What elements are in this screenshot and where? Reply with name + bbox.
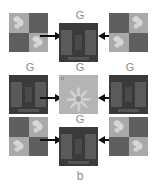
micrograph-cell-middle-left[interactable]: G bbox=[4, 62, 56, 114]
beam-bar-left bbox=[11, 82, 22, 107]
flower-pattern bbox=[59, 75, 98, 114]
micrograph-tile-beam bbox=[109, 75, 148, 114]
figure-row-bottom: G bbox=[0, 114, 160, 166]
micrograph-cell-middle-right[interactable]: G bbox=[104, 62, 156, 114]
beam-pattern bbox=[59, 23, 98, 62]
quadrant-top-left bbox=[9, 13, 29, 33]
beam-waist bbox=[25, 87, 33, 103]
beam-waist bbox=[75, 139, 83, 155]
micrograph-cell-bottom-right[interactable] bbox=[104, 114, 156, 166]
quadrant-bottom-left bbox=[9, 33, 29, 53]
quadrant-bottom-right bbox=[129, 137, 149, 157]
flower-core bbox=[76, 96, 82, 101]
figure-row-middle: G G bbox=[0, 62, 160, 114]
state-label-middle-left: G bbox=[4, 62, 56, 73]
quadrant-top-right bbox=[29, 117, 49, 137]
quadrant-top-left bbox=[109, 13, 129, 33]
beam-foot bbox=[68, 161, 90, 165]
micrograph-cell-middle-center[interactable]: G bbox=[54, 62, 106, 114]
panel-letter-label: b bbox=[54, 170, 106, 182]
corner-marker bbox=[61, 77, 65, 80]
beam-bar-right bbox=[135, 82, 146, 107]
beam-bar-left bbox=[61, 134, 72, 159]
quadrant-bottom-right bbox=[129, 33, 149, 53]
quadrant-top-left bbox=[9, 117, 29, 137]
state-label-middle-right: G bbox=[104, 62, 156, 73]
beam-foot bbox=[18, 109, 40, 113]
micrograph-tile-beam bbox=[59, 127, 98, 166]
beam-bar-left bbox=[61, 30, 72, 55]
quadrant-bottom-left bbox=[109, 137, 129, 157]
quadrant-bottom-left bbox=[109, 33, 129, 53]
beam-bar-left bbox=[111, 82, 122, 107]
quadrant-top-left bbox=[109, 117, 129, 137]
beam-waist bbox=[75, 35, 83, 51]
quadrant-bottom-left bbox=[9, 137, 29, 157]
state-label-middle-center: G bbox=[54, 62, 106, 73]
beam-bar-right bbox=[85, 30, 96, 55]
micrograph-tile-quadrant bbox=[109, 117, 148, 156]
beam-bar-right bbox=[85, 134, 96, 159]
beam-foot bbox=[68, 57, 90, 61]
state-label-top-center: G bbox=[54, 10, 106, 21]
quadrant-top-right bbox=[129, 117, 149, 137]
beam-waist bbox=[125, 87, 133, 103]
quadrant-top-right bbox=[29, 13, 49, 33]
micrograph-tile-beam bbox=[59, 23, 98, 62]
beam-pattern bbox=[109, 75, 148, 114]
figure-row-top: G bbox=[0, 10, 160, 62]
state-label-bottom-center: G bbox=[54, 114, 106, 125]
figure-panel-b: G G bbox=[0, 10, 160, 168]
quadrant-top-right bbox=[129, 13, 149, 33]
petal-group bbox=[64, 85, 92, 111]
cropped-header-text bbox=[78, 0, 160, 6]
micrograph-tile-quadrant bbox=[109, 13, 148, 52]
beam-foot bbox=[118, 109, 140, 113]
micrograph-tile-flower bbox=[59, 75, 98, 114]
micrograph-cell-top-right[interactable] bbox=[104, 10, 156, 62]
beam-pattern bbox=[59, 127, 98, 166]
